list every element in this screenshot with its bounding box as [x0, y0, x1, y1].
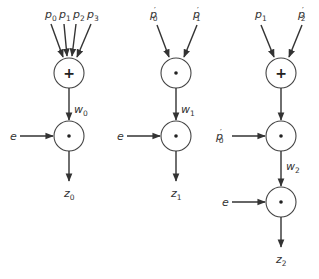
dot-icon — [174, 134, 178, 138]
output-label-z0: z0 — [63, 187, 75, 202]
input-label-p0-prime: p′0 — [149, 7, 158, 23]
dot-icon — [174, 71, 178, 75]
side-input-label-e: e — [117, 130, 124, 143]
network-1: p′0 p′1 w1 e z1 — [117, 7, 201, 202]
input-arrow — [184, 25, 197, 57]
side-input-label-e: e — [10, 130, 17, 143]
input-label-p3: p3 — [86, 8, 99, 23]
dot-icon — [67, 134, 71, 138]
output-label-z2: z2 — [275, 253, 287, 268]
output-label-z1: z1 — [170, 187, 182, 202]
input-label-p0: p0 — [44, 8, 57, 23]
side-input-label-p0-prime: p′0 — [215, 129, 224, 145]
input-arrow — [51, 24, 63, 57]
input-label-p2-prime: p′2 — [297, 7, 306, 23]
dot-icon — [279, 134, 283, 138]
plus-icon: + — [63, 65, 75, 81]
network-0: p0 p1 p2 p3 + w0 e z0 — [10, 8, 99, 202]
input-arrow — [157, 25, 169, 57]
input-arrow — [77, 24, 91, 57]
diagram-canvas: p0 p1 p2 p3 + w0 e z0 p′0 p′1 w1 e — [0, 0, 319, 279]
input-arrow — [261, 25, 274, 57]
intermediate-label-w2: w2 — [286, 160, 300, 175]
input-arrow — [64, 24, 67, 56]
input-label-p1: p1 — [58, 8, 71, 23]
input-arrow — [289, 25, 302, 57]
plus-icon: + — [275, 65, 287, 81]
dot-icon — [279, 200, 283, 204]
input-arrow — [72, 24, 76, 56]
intermediate-label-w0: w0 — [74, 103, 88, 118]
network-2: p1 p′2 + p′0 w2 e z2 — [215, 7, 306, 268]
input-label-p1-prime: p′1 — [192, 7, 201, 23]
intermediate-label-w1: w1 — [181, 103, 195, 118]
side-input-label-e: e — [222, 196, 229, 209]
input-label-p2: p2 — [72, 8, 85, 23]
input-label-p1: p1 — [254, 8, 267, 23]
